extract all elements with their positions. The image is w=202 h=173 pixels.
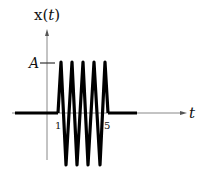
- x-axis-label: t: [189, 104, 196, 122]
- tick-label-5: 5: [104, 120, 110, 131]
- tick-label-1: 1: [55, 120, 61, 131]
- amplitude-label: A: [27, 55, 39, 71]
- signal-diagram: x(t) A t 1 5: [0, 0, 202, 173]
- x-axis-arrow-icon: [180, 111, 187, 115]
- y-axis-arrow-icon: [45, 29, 49, 36]
- y-axis-label: x(t): [34, 6, 60, 24]
